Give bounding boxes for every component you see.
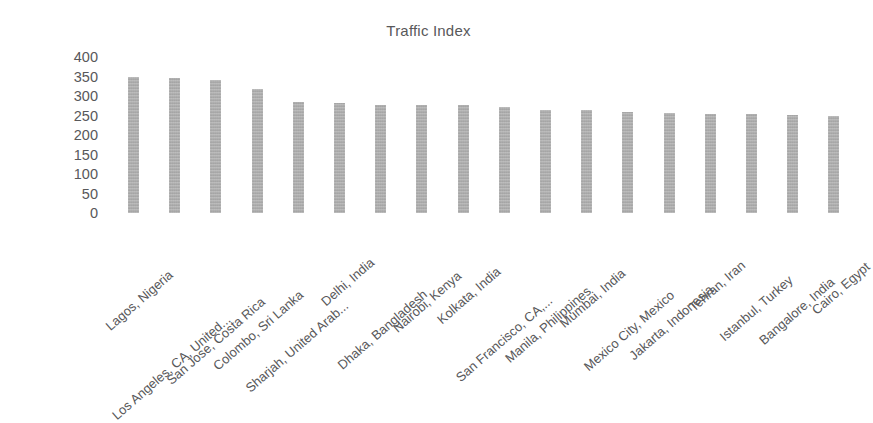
- bar: [828, 116, 839, 214]
- bar: [334, 103, 345, 213]
- plot-area: [108, 57, 850, 213]
- bar: [622, 112, 633, 213]
- x-axis-tick-label: Lagos, Nigeria: [103, 268, 175, 333]
- bar: [252, 89, 263, 213]
- bar: [128, 77, 139, 214]
- bar: [293, 102, 304, 213]
- y-axis-tick-label: 250: [24, 108, 98, 123]
- y-axis-tick-label: 50: [24, 186, 98, 201]
- y-axis-tick-label: 350: [24, 69, 98, 84]
- x-axis-tick-label: Delhi, India: [318, 256, 376, 308]
- x-axis-tick-label: Dhaka, Bangladesh: [335, 287, 429, 371]
- bar: [499, 107, 510, 213]
- x-axis-tick-label: Tehran, Iran: [687, 259, 748, 314]
- y-axis-tick-label: 150: [24, 147, 98, 162]
- bar: [787, 115, 798, 213]
- y-axis-tick-label: 100: [24, 167, 98, 182]
- y-axis-tick-label: 400: [24, 50, 98, 65]
- y-axis-tick-label: 300: [24, 89, 98, 104]
- bar: [210, 80, 221, 213]
- bar: [664, 113, 675, 213]
- bar: [416, 105, 427, 213]
- bar: [458, 105, 469, 213]
- bar: [581, 110, 592, 213]
- bar: [169, 78, 180, 213]
- bar: [375, 105, 386, 213]
- x-axis-labels: Lagos, NigeriaLos Angeles, CA, United...…: [0, 213, 857, 391]
- x-axis-tick-label: Sharjah, United Arab...: [244, 299, 351, 395]
- chart-title: Traffic Index: [0, 22, 857, 39]
- y-axis-tick-label: 200: [24, 128, 98, 143]
- bar: [540, 110, 551, 213]
- bar: [705, 114, 716, 213]
- y-axis: 400350300250200150100500: [24, 49, 98, 224]
- bar: [746, 114, 757, 213]
